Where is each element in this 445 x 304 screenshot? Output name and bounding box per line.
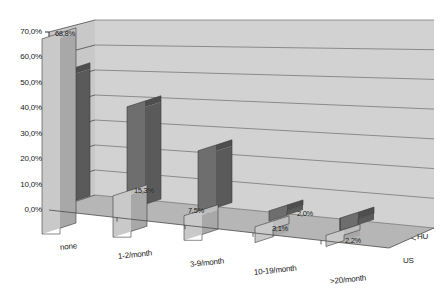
- data-label-us-3-9: 7,5%: [188, 206, 204, 215]
- y-tick-label-10: 10,0%: [0, 180, 42, 189]
- y-tick-label-50: 50,0%: [0, 78, 42, 87]
- bar-us-none[interactable]: [42, 28, 76, 234]
- data-label-us-1-2: 15,3%: [134, 186, 154, 195]
- y-tick-label-40: 40,0%: [0, 103, 42, 112]
- bar-hu-3-9/month[interactable]: [198, 140, 232, 214]
- y-tick-label-30: 30,0%: [0, 129, 42, 138]
- y-tick-label-70: 70,0%: [0, 27, 42, 36]
- data-label-hu-10-19: 2,0%: [297, 209, 313, 218]
- chart-container: 70,0% 60,0% 50,0% 40,0% 30,0% 20,0% 10,0…: [0, 0, 445, 304]
- legend-label-us: US: [403, 256, 414, 265]
- y-tick-label-0: 0,0%: [0, 205, 42, 214]
- data-label-us-none: 68,8%: [55, 29, 75, 38]
- data-label-us-gt20: 2,2%: [345, 236, 361, 245]
- y-tick-label-60: 60,0%: [0, 52, 42, 61]
- y-tick-label-20: 20,0%: [0, 154, 42, 163]
- legend-label-hu: HU: [417, 232, 428, 241]
- x-category-label-none: none: [60, 241, 78, 252]
- depth-axis-ticks: [411, 238, 416, 240]
- data-label-us-10-19: 3,1%: [272, 224, 288, 233]
